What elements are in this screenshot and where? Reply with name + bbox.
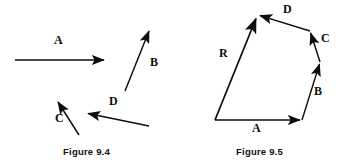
vector-d-arrow: [260, 16, 310, 31]
figure-9-4: A B C D Figure 9.4: [0, 0, 173, 163]
figure-9-5-vectors: [173, 0, 346, 140]
vector-b-arrow: [125, 31, 149, 91]
figure-9-4-vectors: [0, 0, 173, 140]
figure-9-4-caption: Figure 9.4: [0, 146, 173, 157]
vector-label-b: B: [150, 56, 158, 68]
vector-label-r: R: [219, 47, 228, 59]
vector-label-d: D: [109, 95, 118, 107]
vector-label-a: A: [252, 122, 261, 134]
figure-page: A B C D Figure 9.4 A B C D R Figure 9.5: [0, 0, 346, 163]
vector-label-c: C: [55, 112, 64, 124]
vector-label-d: D: [283, 3, 292, 15]
vector-d-arrow: [88, 114, 149, 127]
vector-label-a: A: [54, 34, 63, 46]
figure-9-5-caption: Figure 9.5: [173, 146, 346, 157]
vector-c-arrow: [311, 33, 320, 62]
vector-label-b: B: [314, 85, 322, 97]
vector-r-resultant-arrow: [215, 19, 256, 121]
figure-9-5: A B C D R Figure 9.5: [173, 0, 346, 163]
vector-label-c: C: [321, 32, 330, 44]
